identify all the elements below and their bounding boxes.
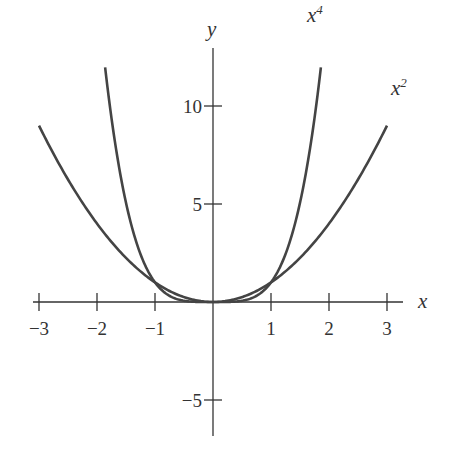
curve-label-x2: x2 — [390, 75, 407, 100]
curve-label-x4: x4 — [306, 2, 323, 27]
labels: −3−2−1123−5510xyx2x4 — [29, 2, 428, 411]
y-tick-label: 5 — [193, 194, 203, 215]
y-tick-label: −5 — [182, 390, 202, 411]
x-tick-label: −2 — [87, 318, 107, 339]
x-tick-label: −3 — [29, 318, 49, 339]
y-axis-label: y — [205, 17, 217, 41]
axes — [33, 48, 403, 436]
plot-canvas: −3−2−1123−5510xyx2x4 — [0, 0, 459, 458]
x-tick-label: 1 — [266, 318, 276, 339]
x-tick-label: 3 — [382, 318, 392, 339]
x-tick-label: −1 — [145, 318, 165, 339]
x-tick-label: 2 — [324, 318, 334, 339]
y-tick-label: 10 — [183, 96, 202, 117]
x-axis-label: x — [417, 289, 428, 313]
